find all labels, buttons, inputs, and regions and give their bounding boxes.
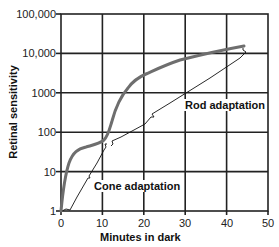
x-tick-label: 40 (217, 217, 237, 229)
plot-area (0, 0, 279, 247)
cone-adaptation-label: Cone adaptation (93, 180, 181, 192)
y-tick-label: 100,000 (16, 8, 56, 20)
y-axis-label: Retinal sensitivity (7, 65, 19, 159)
y-tick-label: 100 (38, 126, 56, 138)
y-tick-label: 10 (44, 166, 56, 178)
rod-adaptation-bracket (111, 48, 246, 146)
rod-adaptation-label: Rod adaptation (184, 99, 266, 111)
x-tick-label: 20 (134, 217, 154, 229)
x-tick-label: 0 (51, 217, 71, 229)
y-tick-label: 10,000 (22, 47, 56, 59)
cone-adaptation-bracket (62, 144, 107, 211)
x-tick-label: 30 (175, 217, 195, 229)
y-tick-label: 1000 (32, 87, 56, 99)
x-tick-label: 10 (92, 217, 112, 229)
dark-adaptation-chart: 100,000 10,000 1000 100 10 1 0 10 20 30 … (0, 0, 279, 247)
x-axis-label: Minutes in dark (100, 231, 181, 243)
y-tick-label: 1 (50, 205, 56, 217)
x-tick-label: 50 (258, 217, 278, 229)
